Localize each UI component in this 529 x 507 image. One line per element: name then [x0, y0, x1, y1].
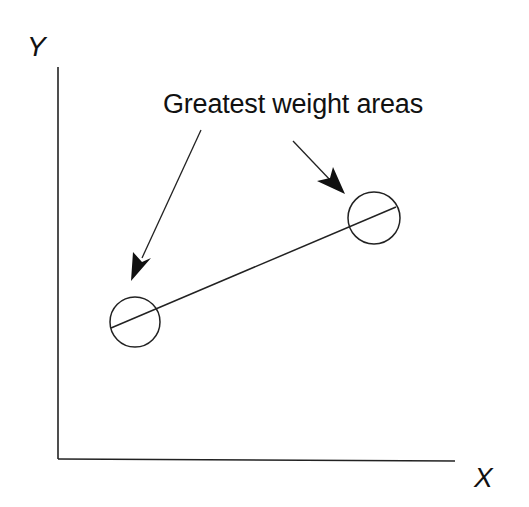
right-weight-area-circle — [348, 192, 400, 244]
connecting-line — [111, 207, 396, 328]
x-axis — [58, 459, 455, 461]
left-arrowhead-icon — [131, 252, 151, 281]
left-weight-area-circle — [110, 297, 160, 347]
y-axis-label: Y — [27, 31, 48, 62]
annotation-label: Greatest weight areas — [163, 89, 423, 119]
left-arrow-shaft — [142, 130, 201, 258]
right-arrow-shaft — [293, 141, 332, 182]
x-axis-label: X — [473, 462, 494, 493]
weight-areas-diagram: Y X Greatest weight areas — [0, 0, 529, 507]
